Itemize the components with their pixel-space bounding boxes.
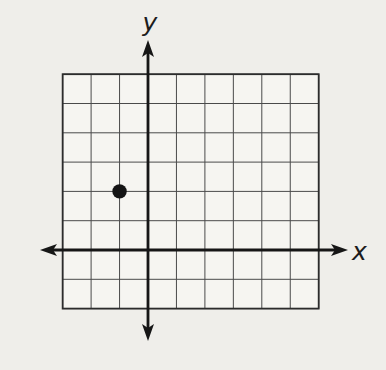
plotted-point bbox=[112, 184, 126, 198]
y-axis-label: y bbox=[142, 8, 159, 37]
coordinate-plane-figure: y x bbox=[0, 0, 386, 370]
coordinate-plane-svg: y x bbox=[0, 0, 386, 370]
plotted-points bbox=[112, 184, 126, 198]
x-axis-label: x bbox=[351, 237, 367, 266]
